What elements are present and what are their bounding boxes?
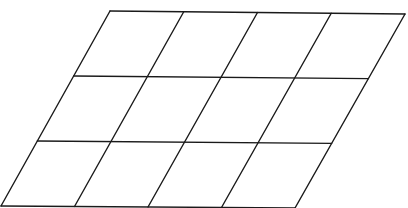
- grid-slanted-line: [295, 14, 405, 208]
- grid-slanted-line: [222, 13, 332, 207]
- grid-slanted-line: [148, 13, 258, 208]
- parallelogram-grid: [0, 0, 408, 208]
- grid-slanted-line: [75, 12, 184, 207]
- slanted-lines: [1, 11, 405, 208]
- grid-slanted-line: [1, 11, 110, 206]
